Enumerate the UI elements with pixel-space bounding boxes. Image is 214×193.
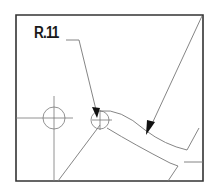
curved-slot	[58, 111, 203, 181]
dimension-label: R.11	[34, 24, 59, 42]
arrowhead	[92, 107, 100, 118]
left-hole-centerline	[16, 96, 73, 181]
small-hole	[91, 110, 112, 130]
technical-drawing	[0, 0, 214, 193]
arrowhead	[146, 120, 155, 135]
leader-line-r11	[66, 40, 100, 118]
leader-line-diagonal	[146, 16, 202, 135]
